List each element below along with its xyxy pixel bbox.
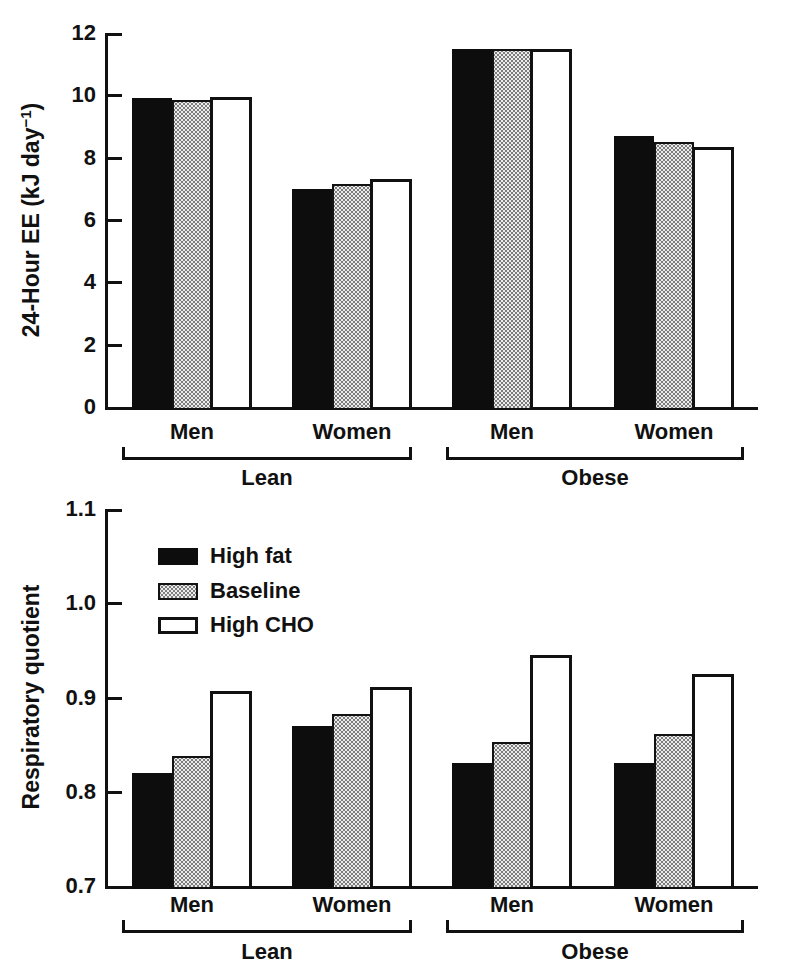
bar-black-high-fat xyxy=(614,763,654,889)
y-tick-label: 0.8 xyxy=(44,779,96,805)
y-tick-label: 1.1 xyxy=(44,496,96,522)
legend-label: High fat xyxy=(210,543,430,569)
bar-stipple-baseline xyxy=(654,734,694,889)
bar-black-high-fat xyxy=(452,763,492,889)
y-tick xyxy=(108,791,122,794)
y-tick-label: 0.7 xyxy=(44,873,96,899)
bar-black-high-fat xyxy=(292,726,332,889)
bar-stipple-baseline xyxy=(492,742,532,889)
legend-label: High CHO xyxy=(210,612,430,638)
x-category-label: Men xyxy=(122,892,262,918)
chart-respiratory-quotient: Respiratory quotient High fatBaselineHig… xyxy=(0,0,788,973)
figure-page: { "figure": { "description": "Two stacke… xyxy=(0,0,788,973)
x-category-label: Men xyxy=(442,892,582,918)
bar-white-high-cho xyxy=(530,655,572,889)
bar-white-high-cho xyxy=(370,687,412,889)
group-label: Obese xyxy=(525,939,665,965)
group-bracket xyxy=(122,920,412,933)
legend-label: Baseline xyxy=(210,578,430,604)
y-tick xyxy=(108,602,122,605)
group-bracket xyxy=(446,920,744,933)
legend-swatch-white xyxy=(158,617,198,634)
bar-stipple-baseline xyxy=(172,756,212,889)
y-tick-label: 1.0 xyxy=(44,590,96,616)
group-label: Lean xyxy=(197,939,337,965)
bar-stipple-baseline xyxy=(332,714,372,889)
y-tick xyxy=(108,509,122,512)
legend-swatch-stipple xyxy=(158,583,198,600)
x-category-label: Women xyxy=(604,892,744,918)
rq-y-axis-title: Respiratory quotient xyxy=(18,585,45,810)
y-tick-label: 0.9 xyxy=(44,685,96,711)
bar-black-high-fat xyxy=(132,773,172,889)
bar-white-high-cho xyxy=(692,674,734,889)
x-category-label: Women xyxy=(282,892,422,918)
legend-swatch-black xyxy=(158,548,198,565)
y-tick xyxy=(108,697,122,700)
bar-white-high-cho xyxy=(210,691,252,889)
